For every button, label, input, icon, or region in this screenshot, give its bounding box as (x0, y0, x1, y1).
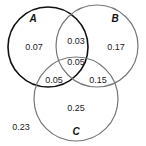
region-abc: 0.05 (67, 57, 85, 67)
set-label-c: C (72, 126, 79, 137)
venn-diagram: A B C 0.07 0.17 0.03 0.05 0.05 0.15 0.25… (0, 0, 146, 146)
region-bc: 0.15 (89, 75, 107, 85)
region-b-only: 0.17 (107, 42, 125, 52)
region-outside: 0.23 (12, 122, 30, 132)
set-label-a: A (29, 13, 36, 24)
region-a-only: 0.07 (25, 42, 43, 52)
region-ab: 0.03 (67, 36, 85, 46)
set-label-b: B (111, 13, 118, 24)
region-ac: 0.05 (45, 75, 63, 85)
region-c-only: 0.25 (67, 103, 85, 113)
